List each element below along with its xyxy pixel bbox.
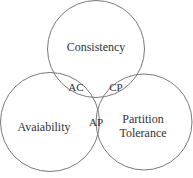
partition-label-line1: Partition	[122, 112, 163, 126]
ac-intersection-label: AC	[68, 81, 83, 93]
cap-venn-diagram: Consistency Avaiability Partition Tolera…	[0, 0, 193, 178]
cp-intersection-label: CP	[109, 81, 122, 93]
venn-canvas: Consistency Avaiability Partition Tolera…	[0, 0, 193, 178]
partition-label-line2: Tolerance	[119, 126, 166, 140]
consistency-label: Consistency	[67, 40, 126, 54]
ap-intersection-label: AP	[89, 116, 103, 128]
availability-label: Avaiability	[17, 120, 70, 134]
